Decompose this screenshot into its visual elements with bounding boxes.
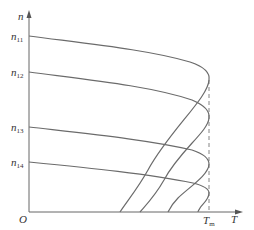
curve-n13 [29, 127, 209, 212]
y-axis-arrow-icon [27, 10, 32, 18]
y-tick-n14: n14 [11, 157, 24, 170]
y-axis-label: n [18, 11, 24, 22]
curve-n12 [29, 72, 209, 212]
tm-label: Tm [203, 215, 215, 228]
y-tick-n11: n11 [11, 31, 23, 44]
curve-n11 [29, 36, 209, 212]
origin-label: O [19, 214, 27, 225]
x-axis-label: T [231, 214, 237, 225]
y-tick-n12: n12 [11, 67, 24, 80]
y-tick-n13: n13 [11, 122, 24, 135]
n-t-diagram [0, 0, 254, 230]
curve-n14 [29, 162, 209, 212]
